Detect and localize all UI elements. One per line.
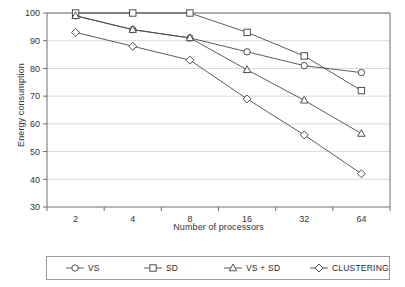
y-tick-label: 40 — [30, 175, 40, 185]
data-series-group — [72, 10, 366, 178]
y-tick-label: 50 — [30, 147, 40, 157]
legend-label: VS + SD — [246, 263, 280, 273]
series-clustering — [72, 28, 366, 177]
data-point-circle — [72, 265, 78, 271]
data-point-square — [130, 10, 136, 16]
data-point-square — [244, 29, 250, 35]
plot-area: 30405060708090100 248163264 — [0, 0, 405, 250]
legend-label: VS — [88, 263, 100, 273]
data-point-diamond — [186, 56, 194, 64]
legend-item-vs: VS — [66, 263, 100, 273]
y-tick-label: 30 — [30, 202, 40, 212]
legend-item-vs-sd: VS + SD — [224, 263, 280, 273]
x-axis-title: Number of processors — [47, 222, 390, 232]
legend-item-sd: SD — [144, 263, 178, 273]
y-tick-label: 60 — [30, 119, 40, 129]
series-line — [76, 16, 362, 134]
legend-item-clustering: CLUSTERING — [310, 263, 389, 273]
data-point-diamond — [300, 131, 308, 139]
y-tick-label: 90 — [30, 36, 40, 46]
series-line — [76, 13, 362, 91]
data-point-square — [187, 10, 193, 16]
plot-frame — [47, 13, 390, 207]
legend-label: SD — [166, 263, 178, 273]
y-tick-label: 70 — [30, 91, 40, 101]
energy-consumption-line-chart: Energy consumption Number of processors … — [0, 0, 405, 287]
data-point-square — [358, 87, 364, 93]
data-point-triangle — [243, 66, 250, 73]
legend-entries: VSSDVS + SDCLUSTERING — [47, 257, 389, 279]
y-tick-label: 100 — [25, 8, 40, 18]
data-point-circle — [244, 49, 250, 55]
data-point-diamond — [357, 170, 365, 178]
y-axis-ticks: 30405060708090100 — [25, 8, 47, 212]
data-point-square — [150, 265, 156, 271]
y-tick-label: 80 — [30, 64, 40, 74]
data-point-square — [301, 53, 307, 59]
data-point-diamond — [129, 42, 137, 50]
y-axis-title: Energy consumption — [16, 35, 26, 175]
data-point-triangle — [301, 96, 308, 103]
legend-label: CLUSTERING — [332, 263, 389, 273]
data-point-triangle — [229, 264, 236, 271]
data-point-diamond — [315, 264, 323, 272]
chart-legend: VSSDVS + SDCLUSTERING — [46, 256, 390, 280]
data-point-triangle — [358, 130, 365, 137]
data-point-diamond — [72, 28, 80, 36]
data-point-circle — [301, 62, 307, 68]
data-point-circle — [358, 69, 364, 75]
series-line — [76, 16, 362, 73]
series-vs-sd — [72, 12, 365, 137]
series-sd — [72, 10, 364, 94]
